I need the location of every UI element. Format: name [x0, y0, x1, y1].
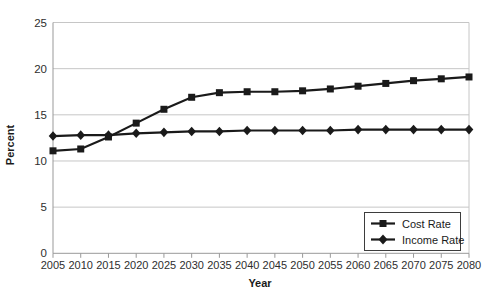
x-tick-label-2060: 2060 — [346, 259, 370, 271]
income-rate-point-2080 — [465, 125, 474, 135]
y-tick-label-0: 0 — [41, 247, 47, 259]
income-rate-point-2060 — [354, 125, 363, 135]
income-rate-point-2035 — [215, 127, 224, 137]
x-tick-label-2030: 2030 — [179, 259, 203, 271]
x-tick-label-2080: 2080 — [457, 259, 481, 271]
x-tick-label-2050: 2050 — [290, 259, 314, 271]
income-rate-point-2020 — [132, 128, 141, 138]
y-tick-label-5: 5 — [41, 201, 47, 213]
legend: Cost Rate Income Rate — [364, 212, 461, 251]
income-rate-point-2070 — [409, 125, 418, 135]
cost-rate-point-2010 — [77, 145, 84, 152]
x-tick-label-2075: 2075 — [429, 259, 453, 271]
y-tick-label-10: 10 — [34, 155, 47, 167]
legend-item-cost-rate: Cost Rate — [370, 216, 456, 231]
x-tick-label-2005: 2005 — [41, 259, 65, 271]
cost-rate-point-2030 — [188, 94, 195, 101]
y-tick-label-20: 20 — [34, 63, 47, 75]
x-tick-label-2015: 2015 — [96, 259, 120, 271]
cost-rate-point-2040 — [244, 88, 251, 95]
cost-rate-point-2020 — [133, 120, 140, 127]
square-marker-icon — [370, 218, 396, 229]
income-rate-point-2055 — [326, 126, 335, 136]
legend-item-income-rate: Income Rate — [370, 232, 456, 247]
x-tick-label-2040: 2040 — [235, 259, 259, 271]
legend-label-cost-rate: Cost Rate — [402, 217, 451, 231]
cost-rate-point-2045 — [271, 88, 278, 95]
cost-rate-point-2080 — [466, 73, 473, 80]
legend-label-income-rate: Income Rate — [402, 233, 464, 247]
cost-rate-point-2025 — [160, 106, 167, 113]
income-rate-point-2040 — [243, 126, 252, 136]
cost-rate-point-2070 — [410, 77, 417, 84]
x-axis-title: Year — [230, 277, 290, 289]
cost-rate-point-2055 — [327, 85, 334, 92]
diamond-marker-icon — [370, 234, 396, 245]
y-tick-label-25: 25 — [34, 17, 47, 29]
x-tick-label-2025: 2025 — [152, 259, 176, 271]
income-rate-point-2010 — [76, 130, 85, 140]
income-rate-point-2025 — [160, 128, 169, 138]
cost-rate-point-2005 — [50, 147, 57, 154]
y-axis-title: Percent — [4, 115, 16, 175]
x-tick-label-2010: 2010 — [68, 259, 92, 271]
income-rate-point-2005 — [49, 131, 58, 141]
income-rate-point-2065 — [382, 125, 391, 135]
cost-rate-point-2050 — [299, 87, 306, 94]
chart: 0510152025200520102015202020252030203520… — [0, 0, 499, 304]
cost-rate-point-2060 — [355, 83, 362, 90]
cost-rate-point-2065 — [382, 80, 389, 87]
cost-rate-line — [53, 77, 469, 151]
x-tick-label-2055: 2055 — [318, 259, 342, 271]
income-rate-point-2050 — [298, 126, 307, 136]
x-tick-label-2045: 2045 — [263, 259, 287, 271]
x-tick-label-2070: 2070 — [401, 259, 425, 271]
income-rate-point-2030 — [187, 127, 196, 137]
income-rate-point-2045 — [271, 126, 280, 136]
y-tick-label-15: 15 — [34, 109, 47, 121]
income-rate-point-2075 — [437, 125, 446, 135]
x-tick-label-2020: 2020 — [124, 259, 148, 271]
x-tick-label-2035: 2035 — [207, 259, 231, 271]
chart-plot-area: 0510152025200520102015202020252030203520… — [0, 0, 499, 304]
x-tick-label-2065: 2065 — [374, 259, 398, 271]
cost-rate-point-2075 — [438, 75, 445, 82]
cost-rate-point-2035 — [216, 89, 223, 96]
